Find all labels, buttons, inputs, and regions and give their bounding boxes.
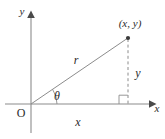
hypotenuse-label: r [74, 53, 79, 67]
adjacent-side-label: x [74, 115, 81, 129]
point-marker [126, 36, 130, 40]
right-angle-marker-icon [119, 95, 128, 104]
angle-theta-label: θ [54, 89, 60, 103]
figure-canvas: y x O (x, y) r θ y x [0, 0, 165, 139]
origin-label: O [17, 106, 26, 120]
hypotenuse-segment [31, 39, 127, 104]
y-axis-label: y [19, 5, 25, 17]
opposite-side-label: y [134, 66, 141, 80]
point-coordinates-label: (x, y) [119, 17, 142, 30]
y-axis-arrow-icon [27, 11, 35, 19]
polar-coordinates-figure: y x O (x, y) r θ y x [0, 0, 165, 139]
x-axis-label: x [154, 102, 160, 114]
